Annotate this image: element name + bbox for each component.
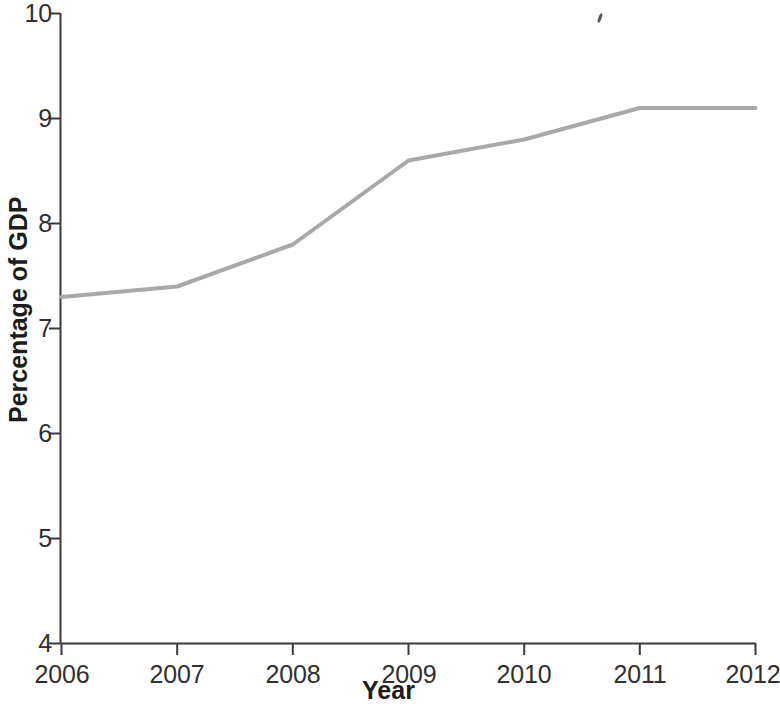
- y-tick-label-4: 4: [0, 629, 52, 658]
- scan-artifact-speck: [594, 10, 606, 26]
- y-tick-label-9: 9: [0, 104, 52, 133]
- y-tick-label-10: 10: [0, 0, 52, 28]
- y-axis-title: Percentage of GDP: [4, 197, 33, 423]
- x-axis-ticks: [62, 643, 756, 655]
- data-series-line: [62, 108, 756, 297]
- x-axis-title: Year: [0, 676, 777, 705]
- y-tick-label-5: 5: [0, 524, 52, 553]
